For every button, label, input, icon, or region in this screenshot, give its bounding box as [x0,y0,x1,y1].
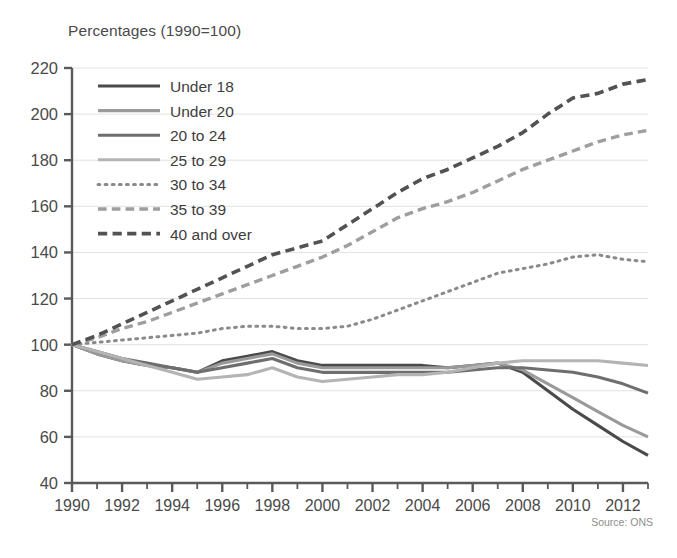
legend-label-30-to-34[interactable]: 30 to 34 [170,176,226,193]
legend-label-25-to-29[interactable]: 25 to 29 [170,152,226,169]
y-axis-ticks: 406080100120140160180200220 [30,59,72,492]
legend-label-20-to-24[interactable]: 20 to 24 [170,127,226,144]
x-tick-label: 2008 [505,497,541,514]
y-tick-label: 180 [30,151,58,169]
series-line-25-to-29 [72,345,648,382]
x-tick-label: 2006 [455,497,491,514]
x-tick-label: 1998 [255,497,291,514]
x-tick-label: 2000 [305,497,341,514]
x-tick-label: 1990 [54,497,90,514]
y-tick-label: 120 [30,290,58,308]
y-tick-label: 40 [40,474,58,492]
legend-label-35-to-39[interactable]: 35 to 39 [170,201,226,218]
y-tick-label: 220 [30,59,58,77]
line-chart-svg: 4060801001201401601802002201990199219941… [0,0,677,520]
x-tick-label: 2002 [355,497,391,514]
axes [72,68,648,483]
gridlines [72,68,648,437]
x-tick-label: 1994 [154,497,190,514]
legend-label-40-and-over[interactable]: 40 and over [170,226,252,243]
chart-figure: Percentages (1990=100) 40608010012014016… [0,0,677,558]
y-tick-label: 160 [30,197,58,215]
page-title: Percentages (1990=100) [68,22,241,40]
x-tick-label: 2010 [555,497,591,514]
x-tick-label: 2012 [605,497,641,514]
series-line-40-and-over [72,80,648,345]
legend-label-under-20[interactable]: Under 20 [170,103,234,120]
y-tick-label: 60 [40,428,58,446]
source-note: Source: ONS [591,516,653,528]
x-axis-ticks: 1990199219941996199820002002200420062008… [54,483,648,514]
y-tick-label: 80 [40,382,58,400]
y-tick-label: 140 [30,243,58,261]
y-tick-label: 100 [30,336,58,354]
x-tick-label: 2004 [405,497,441,514]
series-line-30-to-34 [72,255,648,345]
y-tick-label: 200 [30,105,58,123]
x-tick-label: 1992 [104,497,140,514]
series-line-35-to-39 [72,130,648,344]
x-tick-label: 1996 [204,497,240,514]
legend-label-under-18[interactable]: Under 18 [170,78,234,95]
